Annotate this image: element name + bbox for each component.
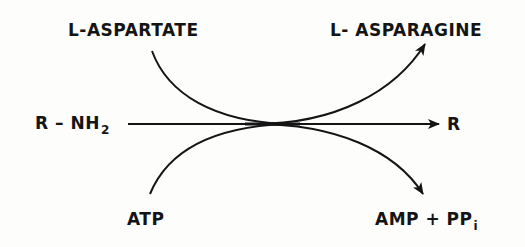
l-asparagine-text: L- ASPARAGINE bbox=[330, 20, 482, 40]
amp-ppi-label: AMP + PPi bbox=[375, 211, 478, 228]
asparagine-output-arrow bbox=[255, 44, 425, 124]
amp-ppi-text: AMP + PP bbox=[375, 209, 473, 229]
ppi-subscript: i bbox=[474, 219, 479, 233]
atp-label: ATP bbox=[127, 211, 164, 228]
l-asparagine-label: L- ASPARAGINE bbox=[330, 22, 482, 39]
r-nh2-text: R – NH bbox=[35, 113, 100, 133]
atp-input-curve bbox=[150, 124, 285, 194]
r-product-text: R bbox=[447, 114, 461, 134]
aspartate-input-curve bbox=[152, 51, 285, 124]
atp-text: ATP bbox=[127, 209, 164, 229]
r-nh2-label: R – NH2 bbox=[35, 115, 110, 132]
r-nh2-subscript: 2 bbox=[101, 123, 110, 137]
l-aspartate-text: L-ASPARTATE bbox=[68, 20, 199, 40]
amp-ppi-output-arrow bbox=[255, 124, 423, 194]
reaction-diagram: L-ASPARTATE L- ASPARAGINE R – NH2 R ATP … bbox=[0, 0, 525, 247]
l-aspartate-label: L-ASPARTATE bbox=[68, 22, 199, 39]
r-product-label: R bbox=[447, 116, 461, 133]
